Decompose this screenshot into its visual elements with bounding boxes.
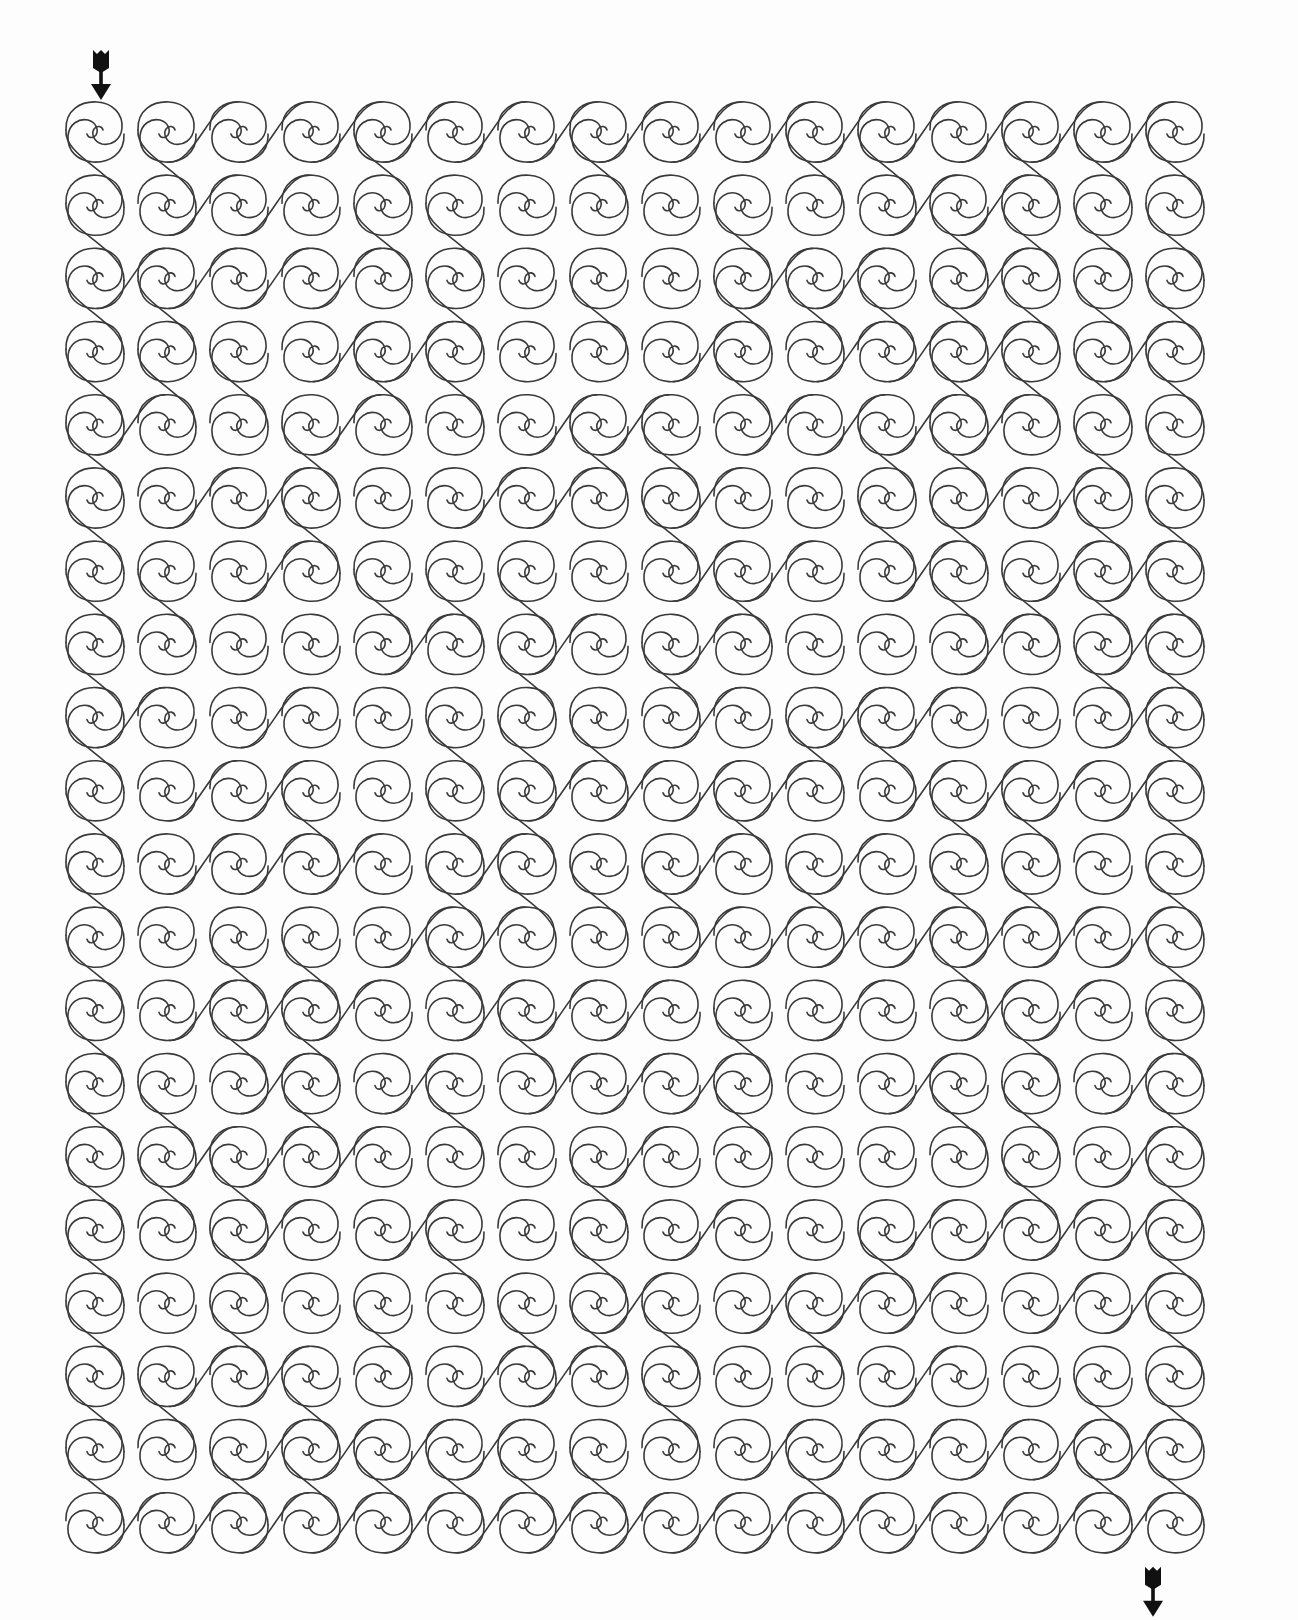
spiral-cell[interactable] [786, 1127, 844, 1187]
spiral-cell[interactable] [66, 1054, 124, 1114]
spiral-cell[interactable] [1002, 1346, 1060, 1406]
spiral-cell[interactable] [282, 1273, 340, 1333]
spiral-cell[interactable] [570, 1200, 628, 1260]
spiral-cell[interactable] [354, 1346, 412, 1406]
spiral-cell[interactable] [138, 1273, 196, 1333]
spiral-cell[interactable] [786, 175, 844, 235]
spiral-cell[interactable] [354, 468, 412, 528]
spiral-cell[interactable] [1146, 1346, 1204, 1406]
spiral-cell[interactable] [282, 614, 340, 674]
spiral-cell[interactable] [66, 614, 124, 674]
spiral-cell[interactable] [354, 541, 412, 601]
spiral-cell[interactable] [66, 907, 124, 967]
spiral-cell[interactable] [570, 1420, 628, 1480]
spiral-cell[interactable] [786, 1346, 844, 1406]
spiral-cell[interactable] [66, 175, 124, 235]
spiral-cell[interactable] [138, 1054, 196, 1114]
spiral-cell[interactable] [1146, 834, 1204, 894]
spiral-cell[interactable] [66, 468, 124, 528]
spiral-cell[interactable] [138, 322, 196, 382]
spiral-cell[interactable] [786, 468, 844, 528]
spiral-cell[interactable] [570, 541, 628, 601]
spiral-cell[interactable] [498, 175, 556, 235]
spiral-cell[interactable] [426, 761, 484, 821]
spiral-cell[interactable] [1146, 468, 1204, 528]
spiral-cell[interactable] [714, 175, 772, 235]
spiral-cell[interactable] [66, 1127, 124, 1187]
spiral-cell[interactable] [786, 1200, 844, 1260]
spiral-cell[interactable] [66, 1200, 124, 1260]
maze-board[interactable] [0, 0, 1298, 1620]
spiral-cell[interactable] [642, 1420, 700, 1480]
spiral-cell[interactable] [786, 614, 844, 674]
spiral-cell[interactable] [354, 1273, 412, 1333]
spiral-cell[interactable] [354, 761, 412, 821]
spiral-cell[interactable] [714, 1346, 772, 1406]
spiral-cell[interactable] [426, 688, 484, 748]
spiral-cell[interactable] [138, 1200, 196, 1260]
spiral-cell[interactable] [426, 1127, 484, 1187]
spiral-cell[interactable] [570, 688, 628, 748]
spiral-cell[interactable] [498, 541, 556, 601]
spiral-cell[interactable] [210, 907, 268, 967]
spiral-cell[interactable] [66, 1346, 124, 1406]
spiral-cell[interactable] [426, 175, 484, 235]
spiral-cell[interactable] [66, 1420, 124, 1480]
spiral-cell[interactable] [354, 175, 412, 235]
spiral-cell[interactable] [138, 541, 196, 601]
spiral-cell[interactable] [66, 322, 124, 382]
spiral-cell[interactable] [570, 248, 628, 308]
spiral-cell[interactable] [498, 688, 556, 748]
spiral-cell[interactable] [210, 614, 268, 674]
spiral-cell[interactable] [282, 907, 340, 967]
spiral-cell[interactable] [1074, 395, 1132, 455]
spiral-cell[interactable] [570, 175, 628, 235]
spiral-cell[interactable] [426, 248, 484, 308]
spiral-cell[interactable] [714, 1127, 772, 1187]
spiral-cell[interactable] [930, 1127, 988, 1187]
spiral-cell[interactable] [210, 1273, 268, 1333]
spiral-cell[interactable] [642, 1346, 700, 1406]
spiral-cell[interactable] [786, 1054, 844, 1114]
spiral-cell[interactable] [1002, 1127, 1060, 1187]
spiral-cell[interactable] [354, 688, 412, 748]
spiral-cell[interactable] [1146, 395, 1204, 455]
spiral-cell[interactable] [498, 1200, 556, 1260]
spiral-cell[interactable] [1146, 980, 1204, 1040]
spiral-cell[interactable] [714, 980, 772, 1040]
spiral-cell[interactable] [642, 248, 700, 308]
spiral-cell[interactable] [1146, 175, 1204, 235]
spiral-cell[interactable] [498, 1273, 556, 1333]
spiral-cell[interactable] [138, 614, 196, 674]
spiral-cell[interactable] [1074, 175, 1132, 235]
spiral-cell[interactable] [1074, 834, 1132, 894]
spiral-cell[interactable] [1002, 834, 1060, 894]
spiral-cell[interactable] [1146, 248, 1204, 308]
spiral-cell[interactable] [66, 1273, 124, 1333]
spiral-cell[interactable] [1074, 248, 1132, 308]
spiral-cell[interactable] [570, 907, 628, 967]
spiral-cell[interactable] [1002, 1054, 1060, 1114]
spiral-cell[interactable] [426, 1273, 484, 1333]
spiral-cell[interactable] [138, 907, 196, 967]
spiral-cell[interactable] [858, 1127, 916, 1187]
spiral-cell[interactable] [858, 614, 916, 674]
spiral-cell[interactable] [66, 102, 124, 162]
spiral-cell[interactable] [498, 322, 556, 382]
spiral-cell[interactable] [210, 395, 268, 455]
spiral-cell[interactable] [66, 834, 124, 894]
spiral-cell[interactable] [498, 248, 556, 308]
spiral-cell[interactable] [66, 761, 124, 821]
spiral-cell[interactable] [66, 541, 124, 601]
spiral-cell[interactable] [1074, 1346, 1132, 1406]
spiral-cell[interactable] [498, 1127, 556, 1187]
spiral-cell[interactable] [426, 541, 484, 601]
spiral-cell[interactable] [858, 468, 916, 528]
spiral-cell[interactable] [1002, 688, 1060, 748]
spiral-cell[interactable] [66, 980, 124, 1040]
spiral-cell[interactable] [138, 1420, 196, 1480]
spiral-cell[interactable] [426, 395, 484, 455]
spiral-cell[interactable] [570, 834, 628, 894]
spiral-cell[interactable] [570, 322, 628, 382]
spiral-cell[interactable] [930, 834, 988, 894]
